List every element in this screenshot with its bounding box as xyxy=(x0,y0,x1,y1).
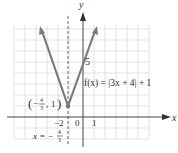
svg-text:4: 4 xyxy=(58,129,61,135)
vertex-label: ( − 4 3 , 1 ) xyxy=(28,96,61,111)
svg-text:(: ( xyxy=(28,96,32,111)
function-label: f(x) = |3x + 4| + 1 xyxy=(84,78,152,89)
y-axis-arrow-icon xyxy=(80,12,86,21)
tick-label-1: 1 xyxy=(92,118,97,128)
x-axis-arrow-icon xyxy=(162,114,171,120)
svg-text:3: 3 xyxy=(58,137,61,143)
svg-text:−: − xyxy=(33,98,38,108)
svg-text:x = −: x = − xyxy=(32,131,54,141)
x-axis-label: x xyxy=(171,112,177,123)
svg-text:1: 1 xyxy=(51,99,56,109)
svg-text:,: , xyxy=(46,99,48,109)
tick-label-neg2: −2 xyxy=(54,118,64,128)
dashed-line-label: x = − 4 3 xyxy=(32,129,63,143)
left-arrow-head-icon xyxy=(39,26,45,35)
tick-label-0: 0 xyxy=(75,118,80,128)
vertex-point xyxy=(66,104,71,109)
x-axis xyxy=(7,114,171,120)
svg-text:): ) xyxy=(57,96,61,111)
absolute-value-graph: y x 5 f(x) = |3x + 4| + 1 ( − 4 3 , 1 ) … xyxy=(0,0,178,153)
svg-text:3: 3 xyxy=(40,105,43,111)
y-axis-label: y xyxy=(78,0,84,10)
tick-label-5: 5 xyxy=(85,56,90,67)
svg-text:4: 4 xyxy=(40,97,43,103)
